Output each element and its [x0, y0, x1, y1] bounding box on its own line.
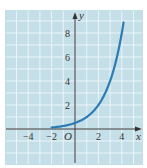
x-axis-label: x — [135, 130, 141, 142]
y-tick-label: 4 — [65, 76, 70, 87]
exponential-graph: −4−2242468 x y O — [0, 0, 147, 168]
x-tick-label: −4 — [23, 131, 34, 142]
x-tick-label: 4 — [119, 131, 124, 142]
y-axis-label: y — [78, 9, 84, 21]
origin-label: O — [64, 130, 72, 142]
y-tick-label: 2 — [65, 100, 70, 111]
x-tick-label: −2 — [46, 131, 57, 142]
x-tick-label: 2 — [96, 131, 101, 142]
y-tick-label: 6 — [65, 52, 70, 63]
y-tick-label: 8 — [65, 28, 70, 39]
